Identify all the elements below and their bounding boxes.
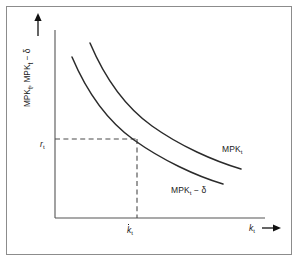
y-axis-title: MPKt, MPKt − δ: [22, 28, 34, 128]
curve-label-mpk-symbol: MPK: [222, 144, 241, 154]
figure-container: MPKt, MPKt − δ rt kt kt MPKt MPKt − δ: [0, 0, 300, 263]
y-axis-title-suffix: − δ: [22, 49, 32, 63]
curve-label-mpk-minus-delta: MPKt − δ: [171, 186, 206, 195]
curve-label-mpk-delta-subscript: t: [190, 189, 192, 196]
y-axis-title-subscript-1: t: [27, 87, 34, 89]
up-arrow-icon: [34, 13, 41, 36]
x-axis-label-subscript: t: [253, 227, 255, 234]
x-axis-label: kt: [249, 224, 255, 233]
y-axis-title-symbol-2: MPK: [22, 65, 32, 83]
y-tick-subscript: t: [43, 143, 45, 150]
y-axis-title-separator: ,: [22, 83, 32, 88]
y-axis-title-symbol-1: MPK: [22, 89, 32, 107]
x-tick-subscript: t: [131, 229, 133, 236]
y-axis-title-subscript-2: t: [27, 63, 34, 65]
curve-mpk-minus-delta: [72, 57, 223, 184]
curve-label-mpk: MPKt: [222, 145, 243, 154]
curve-label-mpk-subscript: t: [241, 148, 243, 155]
curve-label-mpk-delta-suffix: − δ: [192, 185, 207, 195]
curve-mpk: [90, 43, 241, 169]
right-arrow-icon: [262, 224, 281, 231]
curve-label-mpk-delta-symbol: MPK: [171, 185, 190, 195]
y-axis-tick-label-rt: rt: [40, 140, 45, 149]
x-axis-tick-label-kbar: kt: [127, 226, 133, 235]
